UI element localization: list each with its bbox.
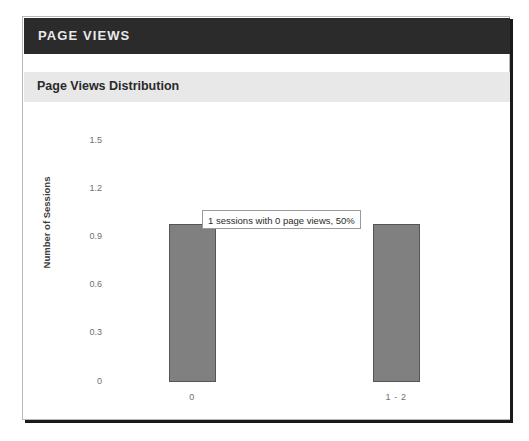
y-axis-title: Number of Sessions (41, 163, 52, 283)
y-tick-label: 0.3 (62, 327, 102, 337)
page-views-report-panel: PAGE VIEWS Page Views Distribution Numbe… (22, 16, 510, 420)
y-tick-label: 0 (62, 376, 102, 386)
x-tick-label: 1 - 2 (351, 392, 441, 402)
page-title: PAGE VIEWS (38, 28, 130, 43)
y-tick-label: 1.5 (62, 135, 102, 145)
section-header-bar: Page Views Distribution (24, 72, 510, 102)
panel-header-bar: PAGE VIEWS (24, 18, 510, 54)
y-tick-label: 0.6 (62, 279, 102, 289)
chart-tooltip: 1 sessions with 0 page views, 50% (202, 210, 361, 229)
y-tick-label: 1.2 (62, 183, 102, 193)
bar-category-1[interactable] (373, 224, 420, 382)
bar-category-0[interactable] (169, 224, 216, 382)
bar-chart[interactable]: Number of Sessions 1.5 1.2 0.9 0.6 0.3 0… (24, 102, 510, 419)
y-tick-label: 0.9 (62, 231, 102, 241)
chart-section-title: Page Views Distribution (37, 79, 179, 93)
x-tick-label: 0 (147, 392, 237, 402)
